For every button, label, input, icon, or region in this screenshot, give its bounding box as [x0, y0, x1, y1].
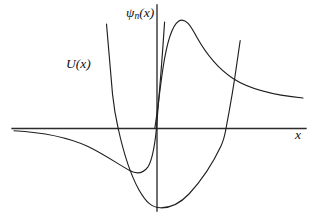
wavefunction-label-argument: (x)	[139, 5, 154, 20]
x-axis-label: x	[295, 128, 301, 142]
figure-root: ψn(x) U(x) x	[0, 0, 317, 224]
potential-label: U(x)	[66, 57, 91, 71]
potential-well-parabola	[118, 129, 226, 208]
potential-curve	[14, 22, 165, 173]
potential-left-wall	[107, 24, 119, 129]
potential-right-wall	[226, 41, 240, 129]
plot-canvas	[0, 0, 317, 224]
wavefunction-label: ψn(x)	[126, 6, 154, 22]
